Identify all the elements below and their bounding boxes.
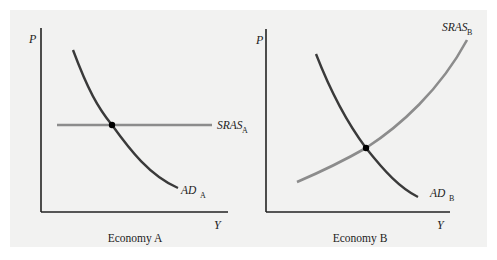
chart-economy-a: P Y Economy A SRAS A AD A bbox=[28, 28, 248, 245]
sras-label-a: SRAS bbox=[217, 119, 243, 131]
ad-curve-b bbox=[316, 54, 418, 197]
chart-economy-b: P Y Economy B SRAS B AD B bbox=[255, 21, 472, 245]
sras-subscript-b: B bbox=[467, 28, 472, 37]
equilibrium-point-b bbox=[363, 145, 369, 151]
sras-subscript-a: A bbox=[242, 126, 248, 135]
output-axis-label-a: Y bbox=[214, 218, 222, 232]
equilibrium-point-a bbox=[109, 122, 115, 128]
ad-label-b: AD bbox=[429, 187, 446, 199]
output-axis-label-b: Y bbox=[437, 218, 445, 232]
caption-economy-a: Economy A bbox=[108, 232, 163, 245]
ad-subscript-b: B bbox=[449, 194, 454, 203]
ad-label-a: AD bbox=[180, 184, 197, 196]
sras-curve-b bbox=[297, 40, 467, 182]
ad-curve-a bbox=[73, 50, 178, 188]
sras-label-b: SRAS bbox=[442, 21, 468, 33]
price-axis-label-b: P bbox=[255, 33, 264, 47]
price-axis-label-a: P bbox=[28, 32, 37, 46]
caption-economy-b: Economy B bbox=[333, 232, 388, 245]
ad-subscript-a: A bbox=[200, 191, 206, 200]
ad-sras-diagram: P Y Economy A SRAS A AD A P Y Economy B … bbox=[0, 0, 497, 260]
